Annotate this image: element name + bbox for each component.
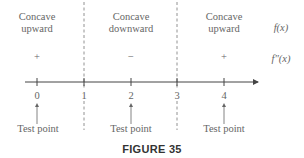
interval-1-concavity-line2: upward [21, 23, 53, 34]
test-point-label-2: Test point [110, 123, 152, 134]
tick-label-2: 2 [128, 90, 133, 101]
test-point-label-4: Test point [203, 123, 245, 134]
row-label-second-derivative: f″(x) [272, 53, 291, 65]
row-label-function: f(x) [274, 22, 289, 34]
tick-label-3: 3 [174, 90, 179, 101]
test-point-label-0: Test point [17, 123, 59, 134]
tick-label-4: 4 [221, 90, 227, 101]
interval-2-sign: − [128, 51, 134, 62]
tick-label-0: 0 [34, 90, 39, 101]
figure-caption: FIGURE 35 [122, 143, 182, 155]
tick-label-1: 1 [81, 90, 86, 101]
concavity-sign-chart: Concave upward + Concave downward − Conc… [0, 0, 304, 158]
interval-1-sign: + [34, 51, 40, 62]
interval-1-concavity-line1: Concave [19, 11, 56, 22]
interval-3-sign: + [221, 51, 227, 62]
interval-3-concavity-line1: Concave [206, 11, 243, 22]
interval-2-concavity-line2: downward [109, 23, 154, 34]
interval-3-concavity-line2: upward [208, 23, 240, 34]
interval-2-concavity-line1: Concave [113, 11, 150, 22]
